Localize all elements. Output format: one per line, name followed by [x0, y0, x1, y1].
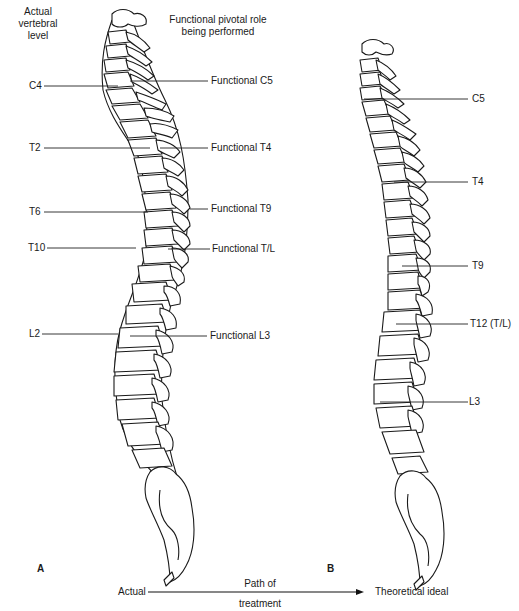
functional-label-l3: Functional L3	[210, 330, 270, 342]
spine-a	[102, 10, 194, 587]
actual-label: Actual	[118, 586, 146, 598]
theoretical-ideal-label: Theoretical ideal	[375, 586, 448, 598]
ideal-label-t4: T4	[472, 176, 484, 188]
path-of-label: Path of	[220, 578, 300, 590]
panel-label-b: B	[327, 563, 334, 574]
treatment-label: treatment	[220, 598, 300, 610]
level-label-c4: C4	[29, 80, 42, 92]
functional-label-t9: Functional T9	[211, 203, 271, 215]
level-label-t2: T2	[29, 142, 41, 154]
functional-label-t4: Functional T4	[211, 142, 271, 154]
level-label-t10: T10	[28, 242, 45, 254]
ideal-label-l3: L3	[469, 396, 480, 408]
level-label-t6: T6	[29, 206, 41, 218]
panel-label-a: A	[37, 563, 44, 574]
functional-label-c5: Functional C5	[211, 75, 273, 87]
ideal-label-c5: C5	[472, 93, 485, 105]
spine-diagram	[0, 0, 519, 611]
arrow-head-icon	[356, 589, 364, 595]
ideal-label-t9: T9	[472, 260, 484, 272]
ideal-label-t12: T12 (T/L)	[470, 318, 511, 330]
spine-b	[360, 40, 444, 591]
functional-label-tl: Functional T/L	[212, 243, 275, 255]
level-label-l2: L2	[29, 328, 40, 340]
